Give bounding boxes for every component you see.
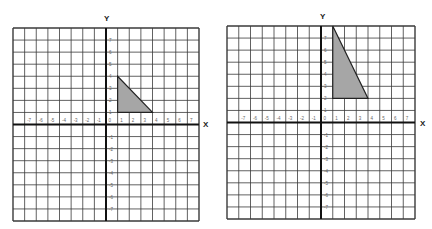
- left-y-tick-label: -3: [109, 159, 113, 164]
- left-x-tick-label: -7: [27, 118, 31, 123]
- diagram-canvas: -7-6-5-4-3-2-1012345677654321-1-2-3-4-5-…: [0, 0, 432, 229]
- left-y-tick-label: -5: [109, 183, 113, 188]
- right-x-tick-label: -3: [288, 116, 292, 121]
- right-x-tick-label: -7: [241, 116, 245, 121]
- left-y-tick-label: -4: [109, 171, 113, 176]
- right-y-axis-label: Y: [320, 12, 326, 21]
- right-y-tick-label: -4: [324, 169, 328, 174]
- right-y-tick-label: -2: [324, 145, 328, 150]
- right-x-tick-label: -1: [312, 116, 316, 121]
- left-y-tick-label: -7: [109, 207, 113, 212]
- left-x-tick-label: -1: [97, 118, 101, 123]
- right-y-tick-label: -6: [324, 193, 328, 198]
- right-x-tick-label: -6: [253, 116, 257, 121]
- left-x-axis-label: X: [203, 120, 209, 129]
- right-y-tick-label: -1: [324, 133, 328, 138]
- left-x-tick-label: -3: [74, 118, 78, 123]
- right-x-axis-label: X: [420, 119, 426, 128]
- right-x-tick-label: -5: [265, 116, 269, 121]
- left-y-tick-label: -6: [109, 195, 113, 200]
- left-y-tick-label: -2: [109, 147, 113, 152]
- left-y-tick-label: -1: [109, 135, 113, 140]
- right-x-tick-label: -4: [277, 116, 281, 121]
- right-x-tick-label: -2: [300, 116, 304, 121]
- right-y-tick-label: -7: [324, 205, 328, 210]
- left-x-tick-label: -6: [39, 118, 43, 123]
- left-x-tick-label: -2: [85, 118, 89, 123]
- right-y-tick-label: -5: [324, 181, 328, 186]
- left-y-axis-label: Y: [104, 14, 110, 23]
- left-x-tick-label: -4: [62, 118, 66, 123]
- left-x-tick-label: -5: [50, 118, 54, 123]
- right-y-tick-label: -3: [324, 157, 328, 162]
